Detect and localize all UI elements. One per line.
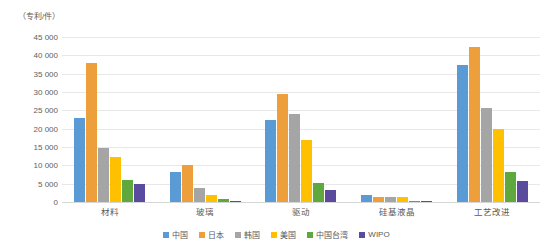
y-axis-tick-label: 0 <box>12 198 58 207</box>
legend-label: 日本 <box>208 229 224 240</box>
bar[interactable] <box>86 63 97 202</box>
y-axis-tick-label: 10 000 <box>12 161 58 170</box>
x-axis-tick-label: 硅基液晶 <box>349 205 445 217</box>
bar[interactable] <box>457 65 468 202</box>
legend-swatch-icon <box>163 232 169 238</box>
y-axis-tick-labels: 45 00040 00035 00030 00025 00020 00015 0… <box>10 37 58 202</box>
bar-group <box>253 37 349 202</box>
bar[interactable] <box>194 188 205 202</box>
legend-label: 美国 <box>280 229 296 240</box>
legend-item[interactable]: WIPO <box>359 230 389 239</box>
legend-label: 韩国 <box>244 229 260 240</box>
x-axis-tick-label: 驱动 <box>253 205 349 217</box>
y-axis-tick-label: 40 000 <box>12 51 58 60</box>
y-axis-tick-label: 30 000 <box>12 88 58 97</box>
bar[interactable] <box>301 140 312 202</box>
bar[interactable] <box>313 183 324 202</box>
x-axis-tick-label: 材料 <box>62 205 158 217</box>
y-axis-tick-label: 20 000 <box>12 124 58 133</box>
bar[interactable] <box>230 201 241 202</box>
axis-baseline <box>62 202 540 203</box>
bar[interactable] <box>170 172 181 202</box>
x-axis-labels: 材料玻璃驱动硅基液晶工艺改进 <box>62 205 540 217</box>
bar[interactable] <box>277 94 288 202</box>
bar-group <box>349 37 445 202</box>
legend-label: WIPO <box>368 230 389 239</box>
legend-item[interactable]: 美国 <box>271 229 296 240</box>
bar[interactable] <box>134 184 145 202</box>
legend-label: 中国 <box>172 229 188 240</box>
y-axis-tick-label: 15 000 <box>12 143 58 152</box>
bar[interactable] <box>421 201 432 202</box>
bar-chart: （专利/件） 45 00040 00035 00030 00025 00020 … <box>0 0 553 251</box>
bar[interactable] <box>218 199 229 202</box>
bar[interactable] <box>409 201 420 202</box>
bar[interactable] <box>110 157 121 202</box>
bar[interactable] <box>481 108 492 202</box>
bar[interactable] <box>122 180 133 202</box>
bar[interactable] <box>361 195 372 202</box>
bar[interactable] <box>385 197 396 202</box>
bar[interactable] <box>206 195 217 202</box>
bar[interactable] <box>397 197 408 202</box>
y-axis-tick-label: 35 000 <box>12 69 58 78</box>
legend-label: 中国台湾 <box>316 229 348 240</box>
bar-group <box>158 37 254 202</box>
bar-group <box>62 37 158 202</box>
legend-swatch-icon <box>199 232 205 238</box>
legend-swatch-icon <box>307 232 313 238</box>
legend-item[interactable]: 日本 <box>199 229 224 240</box>
y-axis-tick-label: 25 000 <box>12 106 58 115</box>
y-axis-tick-label: 45 000 <box>12 33 58 42</box>
bar[interactable] <box>469 47 480 202</box>
legend-swatch-icon <box>359 232 365 238</box>
x-axis-tick-label: 工艺改进 <box>444 205 540 217</box>
bar[interactable] <box>98 148 109 202</box>
bar[interactable] <box>373 197 384 203</box>
legend-swatch-icon <box>235 232 241 238</box>
legend-item[interactable]: 中国 <box>163 229 188 240</box>
legend-item[interactable]: 韩国 <box>235 229 260 240</box>
legend-item[interactable]: 中国台湾 <box>307 229 348 240</box>
y-axis-tick-label: 5 000 <box>12 179 58 188</box>
bar[interactable] <box>289 114 300 202</box>
bar-groups <box>62 37 540 202</box>
bar[interactable] <box>325 190 336 202</box>
legend-swatch-icon <box>271 232 277 238</box>
chart-legend: 中国日本韩国美国中国台湾WIPO <box>0 229 553 240</box>
x-axis-tick-label: 玻璃 <box>158 205 254 217</box>
bar[interactable] <box>74 118 85 202</box>
bar-group <box>444 37 540 202</box>
bar[interactable] <box>505 172 516 202</box>
bar[interactable] <box>182 165 193 202</box>
y-axis-title: （专利/件） <box>18 10 60 21</box>
bar[interactable] <box>517 181 528 202</box>
bar[interactable] <box>265 120 276 202</box>
bar[interactable] <box>493 129 504 202</box>
